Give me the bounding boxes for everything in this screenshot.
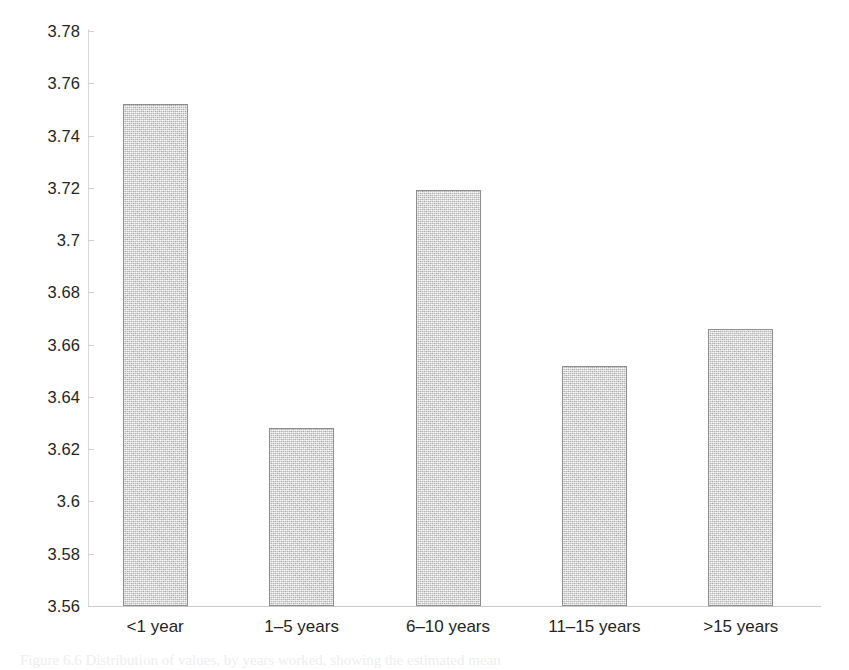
y-axis-tick-label: 3.66 [8, 337, 80, 354]
y-axis-tick-label: 3.62 [8, 441, 80, 458]
figure-caption: Figure 6.6 Distribution of values, by ye… [20, 650, 830, 670]
bar [269, 428, 334, 606]
y-axis-tick-label: 3.72 [8, 180, 80, 197]
x-axis-line [88, 606, 821, 607]
bar [416, 190, 481, 606]
y-axis-tick-label: 3.68 [8, 284, 80, 301]
y-axis-tick-label: 3.6 [8, 493, 80, 510]
y-axis-tick-label: 3.7 [8, 232, 80, 249]
y-axis-tick-mark [88, 606, 94, 607]
x-axis-tick-label: >15 years [668, 618, 814, 635]
y-axis-tick-label: 3.76 [8, 75, 80, 92]
x-axis-tick-label: 6–10 years [375, 618, 521, 635]
y-axis-tick-label: 3.64 [8, 389, 80, 406]
plot-area [88, 31, 820, 606]
bar [708, 329, 773, 606]
y-axis-tick-label: 3.78 [8, 23, 80, 40]
x-axis-tick-label: 1–5 years [228, 618, 374, 635]
y-axis-tick-label: 3.56 [8, 598, 80, 615]
y-axis-tick-label: 3.58 [8, 546, 80, 563]
bar [123, 104, 188, 606]
bar [562, 366, 627, 606]
x-axis-tick-label: <1 year [82, 618, 228, 635]
y-axis-tick-labels: 3.783.763.743.723.73.683.663.643.623.63.… [0, 0, 80, 661]
y-axis-tick-label: 3.74 [8, 128, 80, 145]
x-axis-tick-label: 11–15 years [521, 618, 667, 635]
